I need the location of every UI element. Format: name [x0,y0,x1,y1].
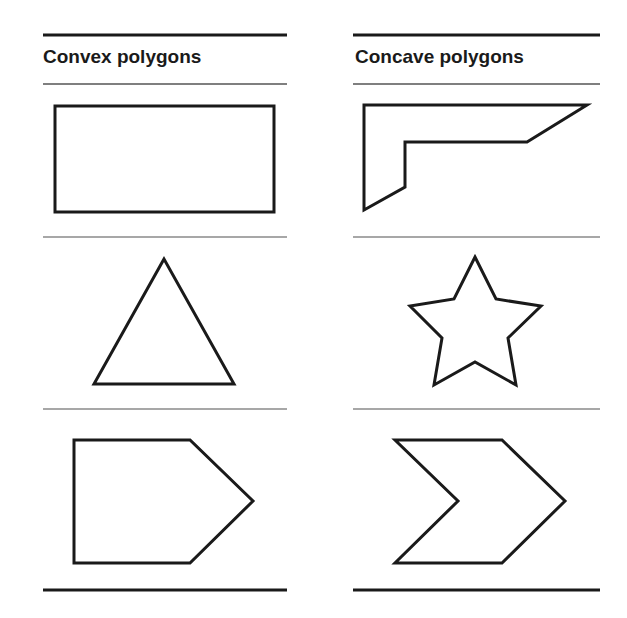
star-shape [410,257,541,385]
chevron-shape [395,440,565,563]
rules [43,35,600,590]
polygon-diagram [0,0,627,618]
l-shape-shape [364,105,587,210]
triangle-shape [94,259,234,384]
pentagon-shape [74,440,253,563]
rectangle-shape [55,106,274,212]
